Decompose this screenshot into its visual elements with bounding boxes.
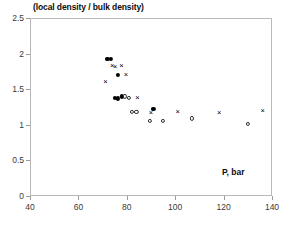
data-point-cross [216,110,222,116]
data-point-open-circle [190,116,194,120]
data-point-cross [134,95,140,101]
data-point-cross [260,108,266,114]
data-point-open-circle [246,122,250,126]
data-point-cross [103,79,109,85]
data-point-cross [175,109,181,115]
data-point-filled-circle [116,73,120,77]
data-point-open-circle [127,96,131,100]
x-axis-title: P, bar [222,167,245,177]
data-point-cross [123,72,129,78]
data-point-cross [112,64,118,70]
data-point-open-circle [134,110,138,114]
data-series-layer [0,0,291,227]
data-point-open-circle [148,119,152,123]
data-point-cross [118,63,124,69]
data-point-cross [148,110,154,116]
chart-container: (local density / bulk density) 00.511.52… [0,0,291,227]
data-point-open-circle [161,119,165,123]
